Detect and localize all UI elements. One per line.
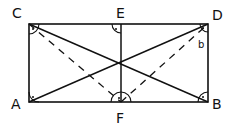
dot-d: [202, 27, 204, 29]
dot-f: [118, 97, 120, 99]
dot-e: [115, 28, 117, 30]
label-f: F: [116, 110, 124, 126]
geometry-diagram: C E D A B F b: [0, 0, 236, 129]
angle-label-b: b: [198, 39, 204, 50]
label-e: E: [116, 5, 125, 21]
dot-b: [202, 96, 204, 98]
dashed-fd: [121, 24, 208, 102]
label-b: B: [212, 96, 222, 112]
label-c: C: [12, 5, 22, 21]
label-a: A: [11, 96, 21, 112]
label-d: D: [212, 7, 223, 23]
dot-a: [32, 96, 34, 98]
dot-c: [32, 28, 34, 30]
dashed-cf: [29, 24, 121, 102]
